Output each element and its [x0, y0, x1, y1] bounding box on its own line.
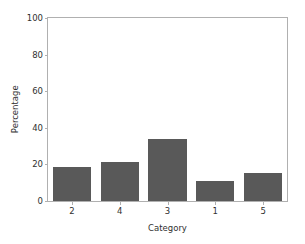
x-tick-mark [72, 201, 73, 205]
y-tick-mark [45, 201, 49, 202]
y-tick-mark [45, 91, 49, 92]
y-tick-label: 100 [27, 14, 43, 23]
x-tick-mark [120, 201, 121, 205]
y-tick-label: 0 [38, 197, 43, 206]
y-axis-label-text: Percentage [10, 86, 19, 134]
y-tick-label: 40 [32, 124, 43, 133]
y-tick-label: 80 [32, 50, 43, 59]
x-tick-label: 4 [117, 207, 122, 216]
bar-category-2 [148, 139, 186, 201]
bar-category-3 [196, 181, 234, 201]
y-tick-label: 20 [32, 160, 43, 169]
bar-category-1 [101, 162, 139, 201]
y-tick-mark [45, 128, 49, 129]
x-tick-mark [168, 201, 169, 205]
x-tick-label: 2 [69, 207, 74, 216]
y-tick-label: 60 [32, 87, 43, 96]
plot-area [48, 18, 287, 201]
bar-chart-figure: 020406080100 24315 Category Percentage [0, 0, 305, 244]
y-tick-mark [45, 164, 49, 165]
x-axis-label: Category [47, 224, 288, 233]
bar-category-4 [244, 173, 282, 201]
x-tick-label: 5 [260, 207, 265, 216]
plot-axes: 020406080100 24315 [47, 17, 288, 202]
x-tick-label: 3 [165, 207, 170, 216]
x-tick-mark [263, 201, 264, 205]
bar-category-0 [53, 167, 91, 201]
x-tick-label: 1 [213, 207, 218, 216]
x-tick-mark [215, 201, 216, 205]
y-tick-mark [45, 55, 49, 56]
y-axis-label: Percentage [9, 17, 20, 202]
y-tick-mark [45, 18, 49, 19]
